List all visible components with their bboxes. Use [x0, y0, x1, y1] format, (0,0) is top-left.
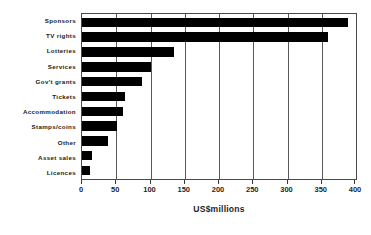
- bars-layer: [82, 14, 356, 179]
- category-label: Other: [0, 135, 80, 150]
- category-label: Gov't grants: [0, 74, 80, 89]
- category-label: Services: [0, 59, 80, 74]
- category-label: Lotteries: [0, 43, 80, 58]
- bar-row: [82, 59, 356, 74]
- bar: [82, 18, 348, 28]
- bar-row: [82, 104, 356, 119]
- category-label: Licences: [0, 165, 80, 180]
- category-label: Stamps/coins: [0, 119, 80, 134]
- x-axis-tickmark: [354, 180, 355, 184]
- bar: [82, 62, 151, 72]
- x-axis-tickmark: [150, 180, 151, 184]
- x-axis-tick-label: 200: [212, 185, 225, 194]
- bar-row: [82, 15, 356, 30]
- category-label: Asset sales: [0, 150, 80, 165]
- category-label: Accommodation: [0, 104, 80, 119]
- bar: [82, 151, 92, 161]
- x-axis-tickmarks: [81, 180, 357, 184]
- x-axis-title: US$millions: [81, 204, 357, 214]
- x-axis-tick-label: 250: [246, 185, 259, 194]
- category-label: TV rights: [0, 28, 80, 43]
- category-label: Tickets: [0, 89, 80, 104]
- bar: [82, 121, 117, 131]
- x-axis-tick-label: 0: [79, 185, 83, 194]
- x-axis-tickmark: [218, 180, 219, 184]
- x-axis-tickmark: [287, 180, 288, 184]
- bar-row: [82, 30, 356, 45]
- x-axis-tick-label: 100: [143, 185, 156, 194]
- category-label: Sponsors: [0, 13, 80, 28]
- bar-row: [82, 134, 356, 149]
- x-axis-tickmark: [81, 180, 82, 184]
- x-axis-tickmark: [252, 180, 253, 184]
- bar: [82, 92, 125, 102]
- x-axis-tickmark: [115, 180, 116, 184]
- x-axis-tick-label: 50: [111, 185, 119, 194]
- x-axis-tick-label: 400: [349, 185, 362, 194]
- bar: [82, 47, 174, 57]
- bar-row: [82, 119, 356, 134]
- category-axis: Sponsors TV rights Lotteries Services Go…: [0, 13, 80, 180]
- x-axis-tick-labels: 050100150200250300350400: [81, 185, 357, 197]
- bar-row: [82, 148, 356, 163]
- bar: [82, 107, 123, 117]
- bar: [82, 32, 328, 42]
- x-axis-tick-label: 300: [280, 185, 293, 194]
- bar-row: [82, 89, 356, 104]
- bar: [82, 166, 90, 176]
- bar: [82, 136, 108, 146]
- bar: [82, 77, 142, 87]
- x-axis-tick-label: 350: [314, 185, 327, 194]
- x-axis-tickmark: [184, 180, 185, 184]
- bar-chart-figure: Sponsors TV rights Lotteries Services Go…: [0, 0, 371, 235]
- bar-row: [82, 163, 356, 178]
- plot-area: [81, 13, 357, 180]
- x-axis-tickmark: [321, 180, 322, 184]
- bar-row: [82, 45, 356, 60]
- x-axis-tick-label: 150: [177, 185, 190, 194]
- bar-row: [82, 74, 356, 89]
